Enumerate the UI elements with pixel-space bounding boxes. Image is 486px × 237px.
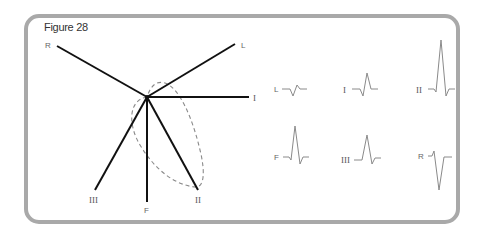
waveform-iii (354, 135, 381, 164)
hub-point (145, 95, 149, 99)
waveforms (282, 40, 455, 190)
axis-label-ii: II (195, 195, 201, 205)
lead-axes (57, 44, 249, 202)
waveform-label-f: F (274, 153, 279, 162)
waveform-ii (428, 40, 455, 96)
waveform-label-ii: II (416, 85, 422, 95)
waveform-f (283, 126, 309, 164)
hexaxial-diagram: R L I II F III L I II F III R (0, 0, 486, 237)
axis-label-i: I (253, 93, 256, 103)
waveform-r (428, 151, 452, 190)
axis-l (147, 44, 235, 97)
axis-label-iii: III (89, 195, 98, 205)
axis-label-r: R (45, 41, 51, 50)
waveform-i (352, 73, 378, 96)
axis-label-f: F (144, 206, 149, 215)
waveform-label-i: I (343, 85, 346, 95)
axis-ii (147, 97, 198, 190)
waveform-label-r: R (418, 152, 424, 161)
waveform-label-iii: III (341, 155, 350, 165)
waveform-label-l: L (274, 85, 279, 94)
axis-label-l: L (241, 41, 246, 50)
axis-r (57, 46, 147, 97)
axis-iii (95, 97, 147, 190)
waveform-l (282, 85, 307, 96)
